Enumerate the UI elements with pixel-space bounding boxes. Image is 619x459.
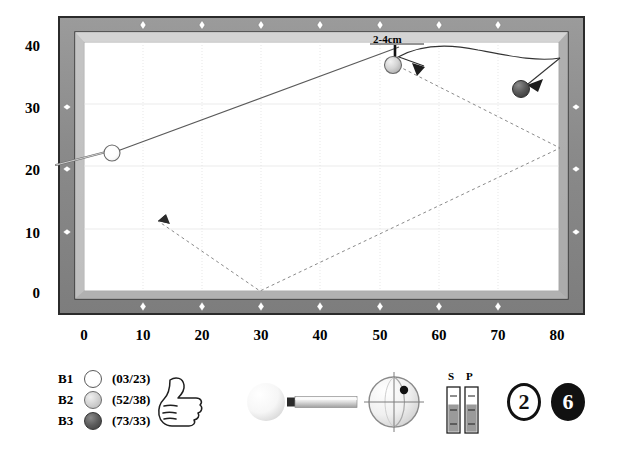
x-tick-0: 0 xyxy=(67,327,101,344)
y-tick-40: 40 xyxy=(6,38,40,55)
x-tick-40: 40 xyxy=(303,327,337,344)
x-tick-10: 10 xyxy=(126,327,160,344)
x-tick-70: 70 xyxy=(481,327,515,344)
shot-number-badge: 2 xyxy=(507,383,541,421)
ball-b2-on-table[interactable] xyxy=(385,57,402,74)
y-tick-20: 20 xyxy=(6,162,40,179)
x-tick-20: 20 xyxy=(185,327,219,344)
x-tick-80: 80 xyxy=(540,327,574,344)
legend-bar: B1 (03/23) B2 (52/38) B3 (73/33) xyxy=(0,358,619,459)
y-tick-30: 30 xyxy=(6,100,40,117)
thumb-up-icon xyxy=(159,378,202,426)
billiards-diagram-root: 2-4cm 40 30 20 10 0 0 10 20 30 40 50 60 … xyxy=(0,0,619,459)
y-tick-10: 10 xyxy=(6,225,40,242)
diagram-number-badge: 6 xyxy=(551,383,585,421)
table-cloth xyxy=(75,32,568,299)
x-tick-60: 60 xyxy=(422,327,456,344)
ball-b1-on-table[interactable] xyxy=(104,145,120,161)
gauge-s xyxy=(447,387,460,433)
x-tick-30: 30 xyxy=(244,327,278,344)
cue-stick-contact-icon xyxy=(247,383,357,421)
x-tick-50: 50 xyxy=(363,327,397,344)
contact-offset-label: 2-4cm xyxy=(373,33,402,45)
gauge-s-label: S xyxy=(448,370,454,382)
ball-b3-on-table[interactable] xyxy=(513,81,530,98)
english-spin-ball-icon xyxy=(364,372,424,432)
gauge-p-label: P xyxy=(466,370,473,382)
y-tick-0: 0 xyxy=(6,285,40,302)
gauge-p xyxy=(465,387,478,433)
